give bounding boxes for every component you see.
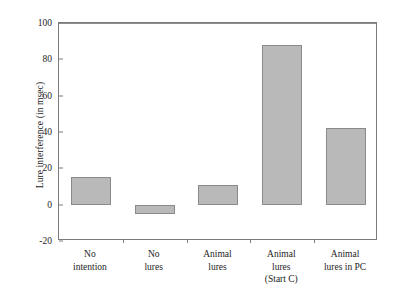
y-axis-tick-label: 20 xyxy=(43,163,53,173)
x-axis-label: Animallures xyxy=(186,248,250,273)
bar-chart-figure: Lure interference (in msec) 100806040200… xyxy=(0,0,399,304)
plot-area: 100806040200-20 xyxy=(58,22,377,240)
x-axis-label-line: Animal xyxy=(186,248,250,261)
x-axis-label-line: lures in PC xyxy=(313,261,377,274)
y-axis-tick-label: 0 xyxy=(47,200,52,210)
bar-slot xyxy=(187,23,251,239)
x-axis-label-line: lures xyxy=(186,261,250,274)
bar xyxy=(262,45,302,205)
x-axis-labels: NointentionNoluresAnimalluresAnimallures… xyxy=(58,248,377,300)
x-axis-tick-mark xyxy=(250,239,251,243)
bar-series xyxy=(59,23,376,239)
y-axis-tick-label: 60 xyxy=(43,91,53,101)
x-axis-label: Animallures(Start C) xyxy=(249,248,313,286)
x-axis-label: Nointention xyxy=(58,248,122,273)
bar-slot xyxy=(123,23,187,239)
x-axis-label-line: No xyxy=(122,248,186,261)
x-axis-label-line: Animal xyxy=(249,248,313,261)
x-axis-label-line: No xyxy=(58,248,122,261)
x-axis-tick-mark xyxy=(187,239,188,243)
bar xyxy=(198,185,238,205)
x-axis-tick-mark xyxy=(314,239,315,243)
y-axis-tick-label: 40 xyxy=(43,127,53,137)
x-axis-label-line: (Start C) xyxy=(249,273,313,286)
bar xyxy=(71,177,111,204)
x-axis-label-line: Animal xyxy=(313,248,377,261)
y-axis-tick-label: 100 xyxy=(38,18,52,28)
x-axis-label-line: intention xyxy=(58,261,122,274)
bar-slot xyxy=(314,23,378,239)
x-axis-label: Animallures in PC xyxy=(313,248,377,273)
y-axis-tick-mark xyxy=(59,241,63,242)
bar-slot xyxy=(250,23,314,239)
bar-slot xyxy=(59,23,123,239)
y-axis-tick-label: 80 xyxy=(43,54,53,64)
y-axis-tick-label: -20 xyxy=(39,236,52,246)
bar xyxy=(135,205,175,214)
x-axis-label-line: lures xyxy=(249,261,313,274)
x-axis-tick-mark xyxy=(123,239,124,243)
x-axis-label: Nolures xyxy=(122,248,186,273)
bar xyxy=(326,128,366,204)
x-axis-label-line: lures xyxy=(122,261,186,274)
